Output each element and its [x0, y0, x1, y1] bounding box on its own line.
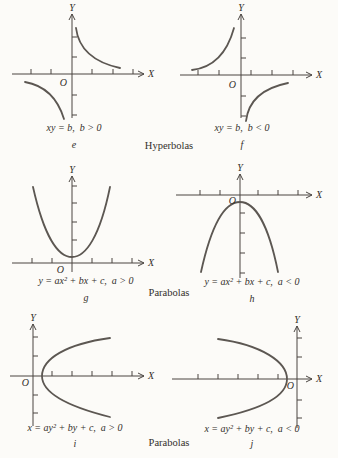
graph-panel-f: Y X O: [170, 2, 332, 128]
group-label-parabolas-bottom: Parabolas: [99, 437, 239, 449]
x-axis-label: X: [147, 257, 155, 268]
equation-caption-e: xy = b, b > 0: [4, 122, 144, 134]
y-axis-ticks: [241, 38, 246, 116]
x-axis-ticks: [198, 70, 293, 75]
origin-label: O: [60, 77, 67, 88]
y-axis-label: Y: [294, 314, 301, 325]
equation-caption-j: x = ay² + by + c, a < 0: [178, 423, 326, 435]
y-axis-label: Y: [237, 164, 244, 173]
x-axis-ticks: [198, 374, 278, 379]
y-axis-label: Y: [30, 312, 37, 323]
x-axis-label: X: [147, 68, 155, 79]
origin-label: O: [287, 380, 294, 391]
y-axis-ticks: [240, 213, 245, 273]
y-axis-label: Y: [238, 2, 245, 13]
x-axis-ticks: [32, 258, 132, 263]
group-label-parabolas-middle: Parabolas: [99, 287, 239, 299]
x-axis-label: X: [147, 370, 155, 381]
origin-label: O: [229, 195, 236, 206]
x-axis-label: X: [315, 189, 323, 200]
x-axis-label: X: [315, 69, 323, 80]
y-axis-ticks: [33, 337, 38, 413]
hyperbola-branch-q1: [76, 28, 120, 68]
equation-caption-f: xy = b, b < 0: [172, 122, 312, 134]
y-axis-label: Y: [69, 2, 76, 13]
y-axis-ticks: [72, 37, 77, 115]
textbook-figure-page: Y X O Y X O Y X O Y: [0, 0, 338, 458]
y-axis-ticks: [72, 186, 77, 240]
x-axis-ticks: [31, 69, 133, 74]
hyperbola-branch-q4: [246, 83, 288, 121]
origin-label: O: [57, 264, 64, 275]
hyperbola-branch-q3: [25, 82, 64, 119]
x-axis-label: X: [315, 373, 323, 384]
equation-caption-g: y = ax² + bx + c, a > 0: [8, 275, 164, 287]
x-axis-ticks: [52, 371, 132, 376]
hyperbola-branch-q2: [192, 28, 234, 70]
y-axis-ticks: [297, 338, 302, 418]
group-label-hyperbolas: Hyperbolas: [99, 140, 239, 152]
graph-panel-e: Y X O: [4, 2, 156, 128]
y-axis-label: Y: [69, 164, 76, 175]
x-axis-ticks: [200, 190, 298, 195]
equation-caption-i: x = ay² + by + c, a > 0: [2, 422, 148, 434]
origin-label: O: [229, 79, 236, 90]
parabola-opening-right: [42, 338, 110, 417]
origin-label: O: [22, 377, 29, 388]
